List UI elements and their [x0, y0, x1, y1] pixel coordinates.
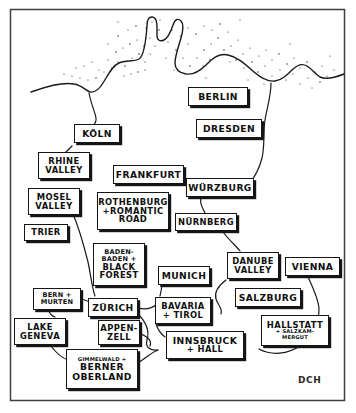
map-label-nurnberg-line-1: NÜRNBERG	[178, 218, 234, 227]
artist-signature: DCH	[298, 375, 321, 385]
map-label-bern-murten[interactable]: BERN +MURTEN	[33, 288, 81, 310]
map-label-wurzburg-line-1: WÜRZBURG	[188, 183, 252, 192]
map-label-frankfurt-line-1: FRANKFURT	[116, 170, 182, 179]
map-label-berner-oberland-line-3: OBERLAND	[72, 372, 132, 381]
map-label-rothenburg-line-3: ROAD	[119, 215, 147, 224]
map-label-bavaria-tirol-line-2: + TIROL	[163, 311, 203, 320]
map-label-rhine-valley[interactable]: RHINEVALLEY	[38, 152, 90, 179]
map-label-vienna-line-1: VIENNA	[292, 262, 334, 271]
map-label-bern-murten-line-2: MURTEN	[41, 299, 73, 306]
map-label-vienna[interactable]: VIENNA	[285, 257, 340, 276]
map-label-trier-line-1: TRIER	[31, 228, 60, 237]
map-label-zurich[interactable]: ZÜRICH	[88, 298, 138, 317]
map-label-hallstatt-salzkammergut[interactable]: HALLSTATT+ SALZKAM-MERGUT	[261, 315, 329, 346]
map-label-salzburg-line-1: SALZBURG	[239, 293, 298, 302]
map-label-mosel-valley[interactable]: MOSELVALLEY	[28, 188, 80, 215]
map-label-mosel-valley-line-2: VALLEY	[35, 202, 72, 211]
map-label-danube-valley[interactable]: DANUBEVALLEY	[227, 252, 279, 279]
map-label-innsbruck-hall[interactable]: INNSBRUCK+ HALL	[166, 331, 244, 359]
map-label-lake-geneva-line-2: GENEVA	[20, 332, 60, 341]
map-label-rothenburg[interactable]: ROTHENBURG+ROMANTICROAD	[97, 192, 169, 230]
map-label-munich[interactable]: MUNICH	[158, 266, 210, 285]
map-label-appenzell-line-2: ZELL	[107, 333, 131, 342]
map-label-dresden[interactable]: DRESDEN	[196, 119, 262, 138]
travel-map: BERLINDRESDENKÖLNRHINEVALLEYFRANKFURTWÜR…	[0, 0, 356, 413]
map-label-innsbruck-hall-line-2: + HALL	[187, 345, 224, 354]
map-label-koln[interactable]: KÖLN	[74, 124, 120, 143]
map-label-dresden-line-1: DRESDEN	[203, 124, 255, 133]
map-label-appenzell[interactable]: APPEN-ZELL	[98, 320, 140, 345]
map-label-nurnberg[interactable]: NÜRNBERG	[175, 213, 237, 231]
map-label-salzburg[interactable]: SALZBURG	[235, 288, 301, 307]
map-label-wurzburg[interactable]: WÜRZBURG	[186, 178, 254, 197]
map-label-rhine-valley-line-2: VALLEY	[45, 166, 82, 175]
map-label-bavaria-tirol[interactable]: BAVARIA+ TIROL	[155, 297, 211, 324]
map-label-lake-geneva[interactable]: LAKEGENEVA	[14, 318, 66, 345]
map-label-frankfurt[interactable]: FRANKFURT	[113, 165, 184, 184]
map-label-zurich-line-1: ZÜRICH	[92, 303, 133, 312]
map-label-danube-valley-line-2: VALLEY	[234, 266, 271, 275]
map-label-berner-oberland[interactable]: GIMMELWALD +BERNEROBERLAND	[66, 349, 138, 389]
map-label-hallstatt-salzkammergut-line-3: MERGUT	[282, 335, 308, 340]
map-label-munich-line-1: MUNICH	[162, 271, 207, 280]
map-label-koln-line-1: KÖLN	[82, 129, 112, 138]
map-label-trier[interactable]: TRIER	[24, 224, 68, 241]
map-label-baden-baden-black-forest[interactable]: BADEN-BADEN +BLACKFOREST	[93, 243, 145, 286]
map-label-berlin[interactable]: BERLIN	[188, 87, 248, 106]
map-label-baden-baden-black-forest-line-4: FOREST	[99, 271, 138, 280]
map-label-berlin-line-1: BERLIN	[198, 92, 238, 101]
